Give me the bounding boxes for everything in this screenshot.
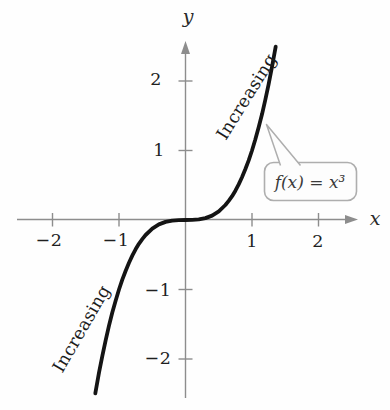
y-tick-label-pos1: 1 [153, 142, 165, 160]
y-tick-label-pos2: 2 [150, 71, 162, 89]
y-tick-label-neg1: −1 [145, 282, 172, 300]
x-tick-label-neg1: −1 [103, 232, 130, 250]
cubic-function-figure: y x −2 −1 1 2 2 1 −1 −2 Increasing Incre… [0, 0, 390, 410]
x-tick-label-neg2: −2 [36, 232, 63, 250]
y-axis-label: y [183, 7, 194, 26]
x-tick-label-pos1: 1 [246, 233, 258, 251]
x-tick-label-pos2: 2 [312, 233, 324, 251]
callout-tail-icon [267, 125, 301, 166]
y-tick-label-neg2: −2 [145, 350, 172, 368]
function-formula-label: f(x) = x³ [275, 174, 346, 191]
y-axis-arrowhead-icon [181, 41, 190, 54]
x-axis-arrowhead-icon [345, 215, 358, 224]
x-axis-label: x [370, 209, 381, 228]
